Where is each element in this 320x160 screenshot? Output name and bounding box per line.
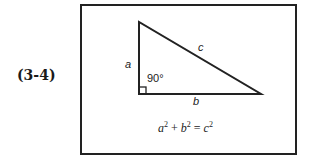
formula-exp: 2 [209,120,213,129]
side-c-label: c [198,41,204,53]
side-a-label: a [125,58,131,70]
formula-plus: + [168,121,181,135]
angle-label: 90° [147,72,164,84]
side-b-label: b [193,95,199,107]
right-angle-marker [139,87,146,94]
pythagorean-formula: a2+b2=c2 [158,120,213,136]
formula-equals: = [191,121,204,135]
